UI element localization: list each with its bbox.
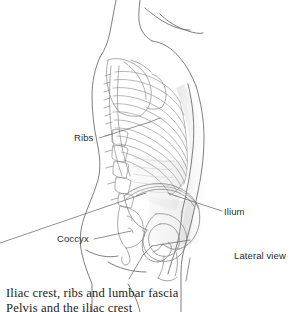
caption-line-2: Pelvis and the iliac crest xyxy=(6,301,298,312)
anatomy-illustration xyxy=(0,0,304,312)
label-coccyx: Coccyx xyxy=(57,233,89,244)
figure-caption: Iliac crest, ribs and lumbar fascia Pelv… xyxy=(6,286,298,312)
label-lateral-view: Lateral view xyxy=(234,250,286,261)
leader-coccyx xyxy=(94,231,131,239)
leader-ribs xyxy=(99,122,150,138)
leader-caption-2 xyxy=(186,258,190,281)
label-ribs: Ribs xyxy=(74,132,93,143)
leader-ribs-2 xyxy=(150,118,160,122)
caption-line-1: Iliac crest, ribs and lumbar fascia xyxy=(6,286,298,301)
label-ilium: Ilium xyxy=(224,206,245,217)
sacrum-coccyx xyxy=(118,206,145,265)
leader-caption-1 xyxy=(129,255,143,279)
anatomical-figure: Ribs Coccyx Ilium Lateral view Iliac cre… xyxy=(0,0,304,312)
